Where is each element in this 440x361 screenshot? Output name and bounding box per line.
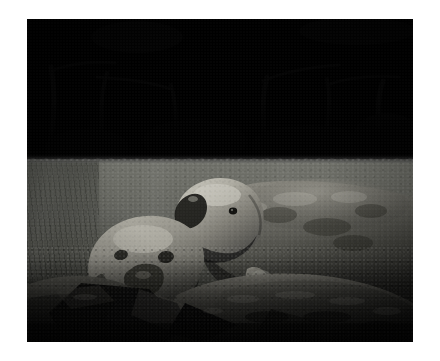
photograph: Black and white underwater photograph of… <box>27 19 413 342</box>
rock-shadow-gradient <box>27 255 413 342</box>
page-root: Black and white underwater photograph of… <box>0 0 440 361</box>
